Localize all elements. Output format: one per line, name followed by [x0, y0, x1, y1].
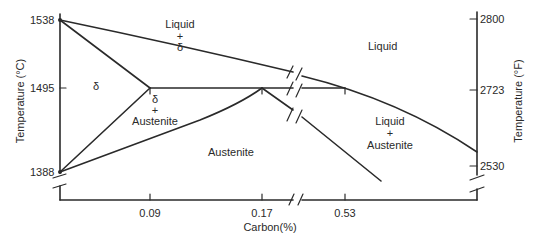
region-liquid-austenite-1: Liquid: [360, 115, 420, 127]
region-liquid: Liquid: [368, 40, 397, 52]
region-liquid-delta-3: δ: [155, 41, 205, 53]
tick-2530: 2530: [480, 160, 504, 172]
tick-2800: 2800: [480, 13, 504, 25]
y-axis-label-right: Temperature (°F): [512, 51, 524, 151]
region-austenite: Austenite: [208, 146, 254, 158]
tick-1538: 1538: [30, 14, 54, 26]
region-liquid-austenite-2: +: [360, 127, 420, 139]
tick-0.53: 0.53: [325, 207, 365, 219]
region-delta: δ: [93, 80, 99, 92]
tick-1495: 1495: [30, 82, 54, 94]
y-axis-label-left: Temperature (°C): [14, 51, 26, 151]
region-liquid-austenite-3: Austenite: [358, 139, 422, 151]
tick-2723: 2723: [480, 84, 504, 96]
tick-1388: 1388: [30, 166, 54, 178]
region-liquid-delta-1: Liquid: [155, 18, 205, 30]
phase-diagram: [0, 0, 534, 242]
x-axis-label: Carbon(%): [220, 221, 320, 233]
region-delta-austenite-3: Austenite: [128, 115, 182, 127]
tick-0.09: 0.09: [130, 207, 170, 219]
tick-0.17: 0.17: [242, 207, 282, 219]
